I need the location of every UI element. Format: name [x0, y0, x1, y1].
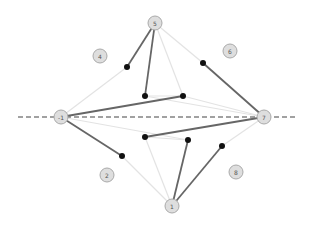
point-dot	[200, 60, 206, 66]
nodes: 546-17281	[54, 16, 271, 213]
node-nR: 7	[257, 110, 271, 124]
point-dot	[119, 153, 125, 159]
dark-edge	[127, 23, 155, 67]
node-n1: 1	[165, 199, 179, 213]
node-n5: 5	[148, 16, 162, 30]
point-dot	[124, 64, 130, 70]
light-edge	[61, 67, 127, 117]
node-n4: 4	[93, 49, 107, 63]
diagram-canvas: 546-17281	[0, 0, 311, 226]
node-label: 4	[98, 53, 102, 60]
node-label: 5	[153, 20, 157, 27]
node-n2: 2	[100, 168, 114, 182]
light-edge	[145, 137, 172, 206]
point-dot	[142, 134, 148, 140]
point-dot	[219, 143, 225, 149]
node-label: -1	[58, 114, 64, 121]
node-label: 1	[170, 203, 174, 210]
dark-edge	[61, 96, 183, 117]
points	[119, 60, 225, 159]
node-n8: 8	[229, 165, 243, 179]
node-n6: 6	[223, 44, 237, 58]
node-label: 2	[105, 172, 109, 179]
node-nL: -1	[54, 110, 68, 124]
point-dot	[180, 93, 186, 99]
dark-edge	[145, 117, 264, 137]
light-edge	[122, 156, 172, 206]
node-label: 8	[234, 169, 238, 176]
point-dot	[185, 137, 191, 143]
node-label: 6	[228, 48, 232, 55]
node-label: 7	[262, 114, 266, 121]
dark-edge	[145, 23, 155, 96]
point-dot	[142, 93, 148, 99]
